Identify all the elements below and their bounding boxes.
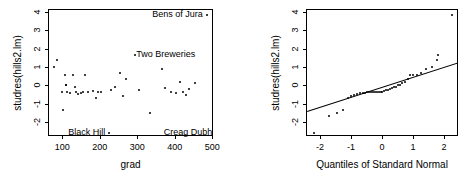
plot-area-normal-qq: [307, 10, 457, 135]
x-tick: [320, 136, 321, 139]
x-tick: [100, 136, 101, 139]
data-point: [206, 14, 208, 16]
data-point: [404, 81, 406, 83]
data-point: [161, 68, 163, 70]
data-point: [188, 88, 190, 90]
data-point: [125, 78, 127, 80]
y-tick: [45, 67, 48, 68]
y-tick: [303, 104, 306, 105]
y-tick: [303, 12, 306, 13]
data-point: [108, 132, 110, 134]
x-tick-label: 400: [167, 143, 182, 152]
plot-area-residuals-vs-grad: [49, 10, 212, 135]
data-point: [164, 87, 166, 89]
data-point: [185, 94, 187, 96]
y-tick-label: -1: [33, 100, 42, 108]
data-point: [336, 112, 338, 114]
x-tick: [382, 136, 383, 139]
x-tick: [413, 136, 414, 139]
y-tick: [45, 30, 48, 31]
figure-canvas: Bens of JuraTwo BreweriesBlack HillCreag…: [0, 0, 465, 176]
data-point: [95, 97, 97, 99]
data-point: [119, 72, 121, 74]
data-point: [69, 92, 71, 94]
data-point: [87, 91, 89, 93]
data-point: [114, 86, 116, 88]
x-tick: [212, 136, 213, 139]
data-point: [66, 91, 68, 93]
x-tick: [137, 136, 138, 139]
data-point: [61, 91, 63, 93]
data-point: [64, 74, 66, 76]
y-tick-label: 2: [33, 46, 42, 51]
y-tick: [45, 12, 48, 13]
y-tick-label: 4: [291, 9, 300, 14]
data-point: [401, 82, 403, 84]
data-point: [74, 86, 76, 88]
x-tick: [444, 136, 445, 139]
data-point: [347, 97, 349, 99]
data-point: [359, 92, 361, 94]
y-tick: [45, 104, 48, 105]
plot-frame-normal-qq: [306, 9, 458, 136]
x-tick-label: 100: [55, 143, 70, 152]
data-point: [431, 66, 433, 68]
x-axis-title: grad: [120, 160, 140, 170]
y-tick-label: 0: [33, 83, 42, 88]
x-tick-label: -1: [347, 143, 355, 152]
data-point: [122, 95, 124, 97]
y-tick-label: 4: [33, 9, 42, 14]
x-tick-label: 0: [379, 143, 384, 152]
data-point: [110, 89, 112, 91]
x-tick: [351, 136, 352, 139]
y-tick-label: 1: [291, 64, 300, 69]
x-tick: [175, 136, 176, 139]
x-tick-label: 2: [442, 143, 447, 152]
data-point: [138, 89, 140, 91]
data-point: [65, 84, 67, 86]
data-point: [97, 91, 99, 93]
data-point: [84, 74, 86, 76]
x-tick-label: -2: [316, 143, 324, 152]
y-tick: [303, 122, 306, 123]
y-tick: [45, 122, 48, 123]
data-point: [437, 54, 439, 56]
data-point: [328, 115, 330, 117]
data-point: [395, 86, 397, 88]
y-tick: [45, 49, 48, 50]
data-point: [77, 93, 79, 95]
y-tick-label: -2: [291, 118, 300, 126]
y-tick-label: -2: [33, 118, 42, 126]
y-tick-label: 2: [291, 46, 300, 51]
data-point: [420, 72, 422, 74]
point-annotation: Two Breweries: [136, 49, 195, 58]
data-point: [425, 68, 427, 70]
data-point: [342, 109, 344, 111]
data-point: [149, 112, 151, 114]
data-point: [194, 82, 196, 84]
data-point: [182, 91, 184, 93]
y-tick: [303, 85, 306, 86]
x-tick-label: 1: [411, 143, 416, 152]
x-tick-label: 500: [205, 143, 220, 152]
data-point: [92, 90, 94, 92]
panel-residuals-vs-grad: Bens of JuraTwo BreweriesBlack HillCreag…: [0, 0, 233, 176]
data-point: [175, 92, 177, 94]
y-axis-title: studres(hills2.lm): [271, 35, 281, 111]
data-point: [313, 132, 315, 134]
data-point: [82, 91, 84, 93]
data-point: [53, 66, 55, 68]
y-tick-label: 0: [291, 83, 300, 88]
x-tick-label: 200: [92, 143, 107, 152]
data-point: [56, 59, 58, 61]
data-point: [100, 91, 102, 93]
point-annotation: Bens of Jura: [152, 9, 203, 18]
data-point: [407, 78, 409, 80]
y-tick-label: 3: [33, 28, 42, 33]
x-tick: [62, 136, 63, 139]
data-point: [62, 109, 64, 111]
y-tick: [45, 85, 48, 86]
data-point: [451, 14, 453, 16]
y-tick-label: 1: [33, 64, 42, 69]
y-tick-label: -1: [291, 100, 300, 108]
